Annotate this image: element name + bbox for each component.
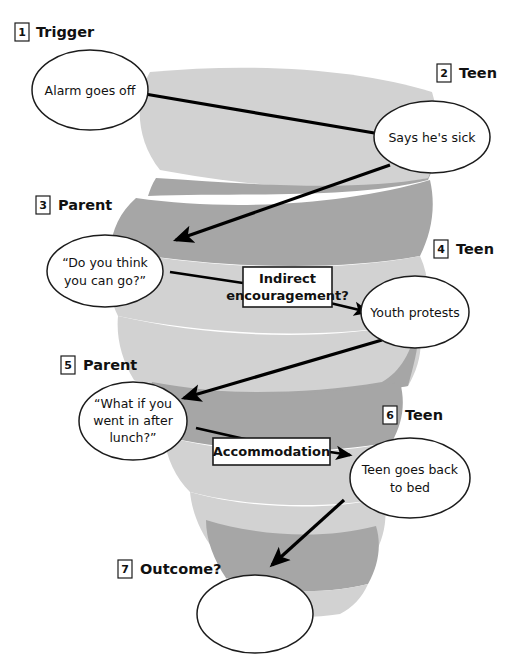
step-label-5: Parent: [83, 357, 137, 373]
node-group-5[interactable]: “What if you went in after lunch?”: [79, 382, 187, 460]
diagram-canvas: Alarm goes off Says he's sick “Do you th…: [0, 0, 520, 661]
step-number-2: 2: [440, 67, 448, 80]
node-label-do-you-think-line2: you can go?”: [64, 273, 146, 288]
step-number-3: 3: [39, 199, 47, 212]
node-label-teen-goes-back-line2: to bed: [390, 480, 430, 495]
step-label-1: Trigger: [36, 24, 95, 40]
callout-group-accommodation[interactable]: Accommodation: [213, 438, 330, 465]
step-number-7: 7: [121, 563, 129, 576]
node-group-7[interactable]: [197, 575, 313, 653]
escalation-spiral-diagram: Alarm goes off Says he's sick “Do you th…: [0, 0, 520, 661]
step-label-6: Teen: [405, 407, 443, 423]
node-label-teen-goes-back-line1: Teen goes back: [361, 462, 459, 477]
step-label-group-4: 4 Teen: [434, 240, 494, 258]
node-label-says-sick: Says he's sick: [388, 130, 476, 145]
step-number-6: 6: [386, 409, 394, 422]
step-label-group-5: 5 Parent: [61, 356, 137, 374]
node-label-youth-protests: Youth protests: [369, 305, 459, 320]
step-label-group-3: 3 Parent: [36, 196, 112, 214]
node-ellipse-teen-goes-back[interactable]: [350, 438, 470, 518]
step-label-group-7: 7 Outcome?: [118, 560, 222, 578]
step-label-group-1: 1 Trigger: [15, 23, 95, 41]
callout-label-indirect-line2: encouragement?: [226, 288, 349, 303]
node-group-4[interactable]: Youth protests: [361, 276, 469, 348]
node-label-what-if-you-line1: “What if you: [94, 396, 172, 411]
node-label-alarm: Alarm goes off: [45, 83, 136, 98]
node-group-2[interactable]: Says he's sick: [374, 101, 490, 173]
node-group-1[interactable]: Alarm goes off: [32, 50, 148, 130]
step-label-2: Teen: [459, 65, 497, 81]
node-label-what-if-you-line2: went in after: [93, 413, 174, 428]
node-ellipse-outcome[interactable]: [197, 575, 313, 653]
step-label-group-2: 2 Teen: [437, 64, 497, 82]
node-label-do-you-think-line1: “Do you think: [62, 255, 148, 270]
callout-label-accommodation: Accommodation: [213, 444, 330, 459]
step-number-4: 4: [437, 243, 445, 256]
node-group-6[interactable]: Teen goes back to bed: [350, 438, 470, 518]
step-number-5: 5: [64, 359, 72, 372]
step-label-4: Teen: [456, 241, 494, 257]
node-group-3[interactable]: “Do you think you can go?”: [47, 235, 163, 307]
step-label-3: Parent: [58, 197, 112, 213]
node-label-what-if-you-line3: lunch?”: [109, 430, 156, 445]
step-label-7: Outcome?: [140, 561, 222, 577]
step-label-group-6: 6 Teen: [383, 406, 443, 424]
step-number-1: 1: [18, 26, 26, 39]
callout-group-indirect[interactable]: Indirect encouragement?: [226, 267, 349, 307]
callout-label-indirect-line1: Indirect: [259, 271, 316, 286]
node-ellipse-do-you-think[interactable]: [47, 235, 163, 307]
